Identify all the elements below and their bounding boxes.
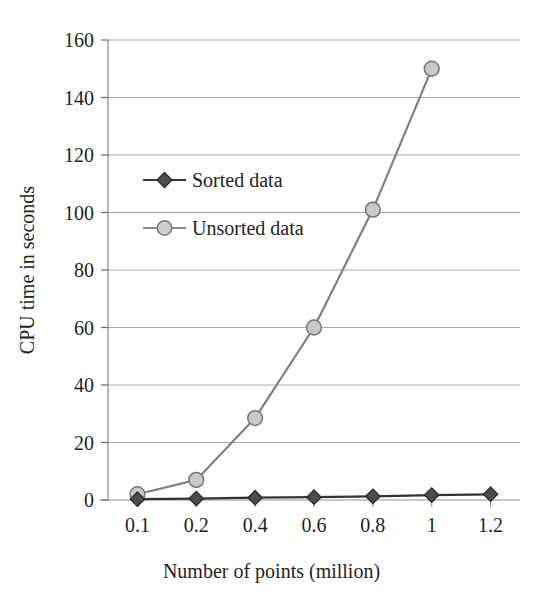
legend-label-unsorted: Unsorted data <box>192 217 304 239</box>
y-tick-label: 0 <box>84 489 94 511</box>
x-tick-label: 1 <box>427 514 437 536</box>
circle-marker <box>189 472 204 487</box>
x-tick-label: 0.1 <box>125 514 150 536</box>
x-tick-label: 0.6 <box>302 514 327 536</box>
legend-label-sorted: Sorted data <box>192 169 283 191</box>
y-tick-label: 140 <box>64 87 94 109</box>
chart-figure: 020406080100120140160 0.10.20.40.60.811.… <box>0 0 543 595</box>
x-tick-label: 0.8 <box>360 514 385 536</box>
y-tick-label: 100 <box>64 202 94 224</box>
circle-icon <box>157 221 171 235</box>
x-tick-label: 1.2 <box>478 514 503 536</box>
y-tick-label: 60 <box>74 317 94 339</box>
x-tick-label: 0.2 <box>184 514 209 536</box>
circle-marker <box>365 202 380 217</box>
line-chart: 020406080100120140160 0.10.20.40.60.811.… <box>0 0 543 595</box>
circle-marker <box>248 411 263 426</box>
y-tick-label: 160 <box>64 29 94 51</box>
y-tick-label: 40 <box>74 374 94 396</box>
x-tick-label: 0.4 <box>243 514 268 536</box>
y-tick-label: 120 <box>64 144 94 166</box>
circle-marker <box>424 61 439 76</box>
y-tick-label: 20 <box>74 432 94 454</box>
y-axis-title: CPU time in seconds <box>16 186 38 355</box>
y-tick-label: 80 <box>74 259 94 281</box>
x-axis-title: Number of points (million) <box>163 560 380 583</box>
legend-entry-sorted: Sorted data <box>143 169 283 191</box>
circle-marker <box>307 320 322 335</box>
